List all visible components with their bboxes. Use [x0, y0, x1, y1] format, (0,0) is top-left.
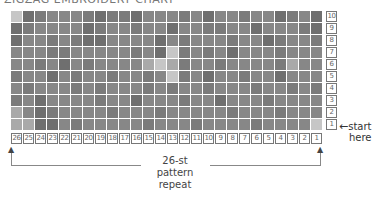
stitch-cell: [119, 83, 130, 94]
stitch-cell: [95, 35, 106, 46]
stitch-cell: [107, 59, 118, 70]
stitch-cell: [11, 11, 22, 22]
column-number-labels: 2625242322212019181716151413121110987654…: [11, 133, 322, 144]
stitch-cell: [251, 71, 262, 82]
stitch-cell: [311, 11, 322, 22]
stitch-cell: [203, 107, 214, 118]
stitch-cell: [179, 11, 190, 22]
stitch-cell: [71, 11, 82, 22]
stitch-cell: [251, 95, 262, 106]
stitch-cell: [167, 95, 178, 106]
start-text: start: [348, 121, 371, 132]
stitch-cell: [299, 71, 310, 82]
stitch-cell: [47, 35, 58, 46]
stitch-cell: [263, 59, 274, 70]
stitch-cell: [263, 71, 274, 82]
stitch-cell: [263, 23, 274, 34]
column-number: 13: [167, 133, 178, 144]
stitch-cell: [11, 83, 22, 94]
stitch-cell: [71, 71, 82, 82]
stitch-cell: [311, 59, 322, 70]
stitch-cell: [155, 11, 166, 22]
stitch-cell: [275, 95, 286, 106]
stitch-cell: [83, 23, 94, 34]
column-number: 10: [203, 133, 214, 144]
stitch-cell: [227, 119, 238, 130]
stitch-cell: [95, 71, 106, 82]
stitch-cell: [35, 71, 46, 82]
stitch-cell: [275, 83, 286, 94]
stitch-cell: [203, 47, 214, 58]
stitch-cell: [47, 59, 58, 70]
stitch-cell: [287, 83, 298, 94]
stitch-cell: [239, 71, 250, 82]
stitch-cell: [155, 71, 166, 82]
stitch-cell: [71, 47, 82, 58]
stitch-cell: [59, 11, 70, 22]
stitch-cell: [191, 35, 202, 46]
stitch-cell: [35, 59, 46, 70]
stitch-cell: [11, 59, 22, 70]
stitch-cell: [179, 119, 190, 130]
pattern-repeat-label: 26-st pattern repeat: [145, 155, 205, 191]
stitch-cell: [299, 23, 310, 34]
stitch-cell: [119, 11, 130, 22]
up-arrow-icon-left: ▲: [8, 146, 14, 154]
stitch-cell: [299, 83, 310, 94]
stitch-cell: [23, 107, 34, 118]
stitch-cell: [119, 107, 130, 118]
stitch-cell: [35, 119, 46, 130]
stitch-cell: [251, 83, 262, 94]
stitch-cell: [59, 107, 70, 118]
stitch-cell: [47, 107, 58, 118]
stitch-cell: [47, 47, 58, 58]
stitch-cell: [311, 35, 322, 46]
stitch-cell: [95, 107, 106, 118]
stitch-cell: [179, 107, 190, 118]
stitch-cell: [191, 119, 202, 130]
stitch-cell: [251, 23, 262, 34]
stitch-cell: [11, 95, 22, 106]
stitch-cell: [155, 23, 166, 34]
stitch-cell: [275, 47, 286, 58]
row-number: 8: [326, 35, 337, 46]
stitch-cell: [191, 71, 202, 82]
stitch-cell: [299, 11, 310, 22]
stitch-cell: [239, 59, 250, 70]
stitch-cell: [11, 107, 22, 118]
stitch-cell: [59, 59, 70, 70]
stitch-cell: [143, 95, 154, 106]
column-number: 3: [287, 133, 298, 144]
column-number: 15: [143, 133, 154, 144]
stitch-cell: [35, 23, 46, 34]
stitch-cell: [107, 107, 118, 118]
stitch-cell: [275, 119, 286, 130]
stitch-cell: [155, 107, 166, 118]
row-number: 3: [326, 95, 337, 106]
stitch-cell: [251, 59, 262, 70]
stitch-cell: [131, 47, 142, 58]
stitch-cell: [35, 47, 46, 58]
column-number: 11: [191, 133, 202, 144]
stitch-cell: [47, 23, 58, 34]
row-number: 7: [326, 47, 337, 58]
stitch-cell: [107, 35, 118, 46]
stitch-cell: [203, 11, 214, 22]
stitch-cell: [107, 83, 118, 94]
stitch-cell: [59, 23, 70, 34]
stitch-cell: [143, 71, 154, 82]
stitch-cell: [251, 11, 262, 22]
stitch-cell: [23, 95, 34, 106]
stitch-cell: [59, 95, 70, 106]
stitch-cell: [167, 107, 178, 118]
stitch-cell: [95, 95, 106, 106]
stitch-cell: [131, 59, 142, 70]
stitch-cell: [23, 35, 34, 46]
column-number: 19: [95, 133, 106, 144]
stitch-cell: [11, 23, 22, 34]
stitch-cell: [227, 107, 238, 118]
stitch-cell: [299, 59, 310, 70]
stitch-cell: [215, 11, 226, 22]
stitch-cell: [191, 59, 202, 70]
row-number: 6: [326, 59, 337, 70]
